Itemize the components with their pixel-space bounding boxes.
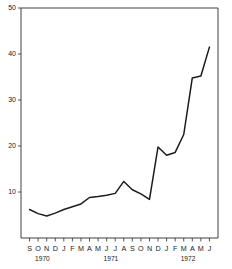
x-month-label: A [190,244,195,253]
x-month-label: F [173,244,178,253]
x-month-label: S [130,244,135,253]
y-tick-label: 50 [8,4,16,11]
x-month-label: N [44,244,49,253]
x-month-label: J [208,244,212,253]
x-month-label: A [121,244,126,253]
y-tick-label: 10 [8,188,16,195]
x-month-label: O [138,244,144,253]
x-year-label: 1972 [181,255,196,262]
y-tick-label: 30 [8,96,16,103]
x-month-label: M [95,244,101,253]
x-month-label: M [181,244,187,253]
chart-figure: 1020304050 SONDJFMAMJJASONDJFMAMJ 197019… [0,0,232,269]
chart-background [0,0,232,269]
x-month-label: A [87,244,92,253]
y-tick-label: 20 [8,142,16,149]
x-month-label: J [62,244,66,253]
x-month-label: D [53,244,58,253]
x-year-label: 1971 [104,255,119,262]
x-month-label: D [155,244,160,253]
y-tick-label: 40 [8,50,16,57]
x-month-label: J [105,244,109,253]
x-month-label: M [198,244,204,253]
x-month-label: J [165,244,169,253]
line-chart: 1020304050 SONDJFMAMJJASONDJFMAMJ 197019… [0,0,232,269]
x-month-label: F [70,244,75,253]
x-month-label: N [147,244,152,253]
x-year-label: 1970 [35,255,50,262]
x-month-label: M [78,244,84,253]
x-month-label: S [27,244,32,253]
x-month-label: O [35,244,41,253]
x-month-label: J [113,244,117,253]
